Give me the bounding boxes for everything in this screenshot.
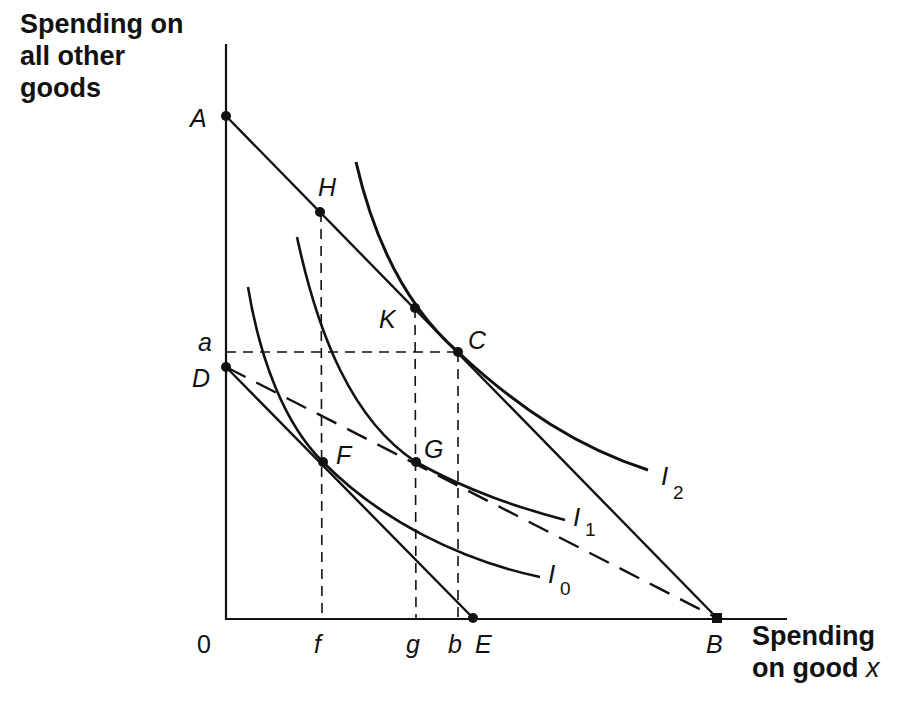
label-A: A: [188, 104, 207, 132]
curve-label-I0: I 0: [548, 559, 571, 599]
budget-line-DE: [226, 367, 473, 618]
label-K: K: [379, 305, 397, 333]
svg-text:0: 0: [560, 578, 571, 599]
budget-line-DB-dashed: [226, 367, 717, 618]
indifference-diagram: A H K C D F G E B a f g b 0 I 2 I 1 I 0: [0, 0, 911, 717]
indifference-curve-I1: [297, 237, 565, 520]
point-F: [318, 457, 328, 467]
label-H: H: [318, 173, 337, 201]
svg-text:I: I: [573, 502, 580, 532]
svg-text:1: 1: [585, 519, 596, 540]
label-F: F: [336, 441, 353, 469]
x-tick-f: f: [314, 630, 324, 658]
point-K: [410, 303, 420, 313]
origin-label: 0: [197, 630, 211, 658]
point-H: [315, 207, 325, 217]
y-tick-a: a: [198, 328, 212, 356]
budget-line-AB: [226, 116, 717, 618]
svg-text:I: I: [548, 559, 555, 589]
curve-label-I1: I 1: [573, 502, 596, 540]
label-B: B: [706, 630, 723, 658]
svg-text:I: I: [661, 461, 668, 491]
curve-label-I2: I 2: [661, 461, 684, 503]
point-D: [221, 362, 231, 372]
point-B: [712, 613, 722, 623]
point-E: [468, 613, 478, 623]
label-D: D: [192, 364, 210, 392]
x-tick-b: b: [448, 630, 462, 658]
point-C: [453, 347, 463, 357]
point-A: [221, 111, 231, 121]
label-E: E: [475, 630, 492, 658]
x-tick-g: g: [406, 630, 420, 658]
indifference-curve-I2: [356, 162, 648, 470]
label-C: C: [468, 326, 487, 354]
point-G: [411, 457, 421, 467]
svg-text:2: 2: [673, 482, 684, 503]
label-G: G: [424, 435, 443, 463]
